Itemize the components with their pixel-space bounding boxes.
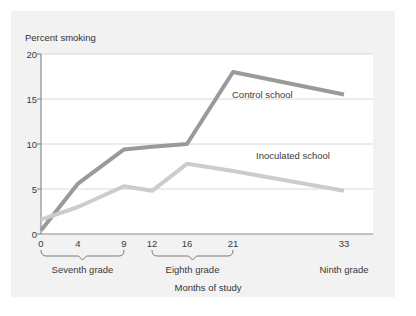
x-tick-label: 12	[137, 238, 167, 249]
series-label-inoculated: Inoculated school	[256, 150, 330, 161]
x-tick-label: 21	[218, 238, 248, 249]
y-tick-label: 20	[7, 49, 37, 60]
y-tick-label: 15	[7, 94, 37, 105]
x-axis-title: Months of study	[0, 283, 416, 293]
x-tick-label: 4	[63, 238, 93, 249]
x-tick-label: 33	[329, 238, 359, 249]
grade-bracket-label: Ninth grade	[284, 264, 404, 275]
x-tick-label: 0	[26, 238, 56, 249]
grade-bracket-label: Eighth grade	[133, 264, 253, 275]
series-label-control: Control school	[232, 89, 293, 100]
chart-figure: Percent smoking 05101520 04912162133 Sev…	[0, 0, 416, 316]
grade-brackets	[41, 250, 233, 260]
y-tick-label: 5	[7, 184, 37, 195]
series-line-inoculated	[41, 164, 344, 220]
x-tick-label: 16	[172, 238, 202, 249]
y-tick-label: 10	[7, 139, 37, 150]
grade-bracket-label: Seventh grade	[23, 264, 143, 275]
x-tick-label: 9	[109, 238, 139, 249]
